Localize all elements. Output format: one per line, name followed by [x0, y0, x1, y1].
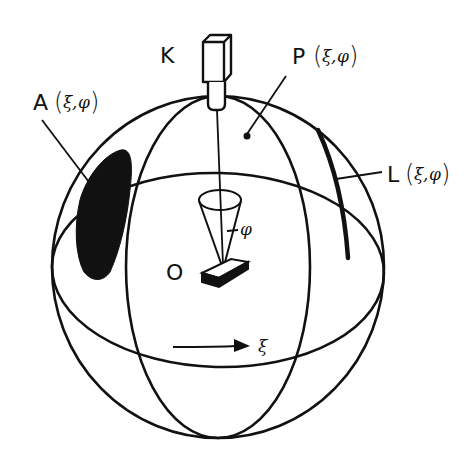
svg-text:,: ,	[72, 92, 77, 112]
leader-p	[247, 76, 286, 134]
svg-text:): )	[90, 88, 99, 116]
svg-text:(: (	[54, 88, 63, 116]
label-origin-o: O	[166, 260, 183, 285]
label-cone-phi: φ	[240, 219, 252, 239]
label-line-l: L ( ξ , φ )	[387, 160, 450, 188]
svg-text:): )	[441, 160, 450, 188]
rotation-arrow	[173, 339, 250, 352]
optical-axis	[217, 110, 223, 265]
svg-text:(: (	[405, 160, 414, 188]
camera-k	[203, 35, 231, 110]
svg-text:P: P	[292, 44, 305, 69]
svg-text:): )	[349, 42, 358, 70]
svg-text:,: ,	[331, 46, 336, 66]
sphere-diagram: K P ( ξ , φ ) A ( ξ , φ ) L ( ξ , φ ) O …	[0, 0, 475, 463]
svg-text:(: (	[313, 42, 322, 70]
label-area-a: A ( ξ , φ )	[33, 88, 99, 116]
point-p-dot	[244, 133, 251, 140]
line-l-arc	[318, 130, 348, 258]
svg-text:A: A	[33, 90, 48, 115]
label-point-p: P ( ξ , φ )	[292, 42, 358, 70]
sample-plate	[202, 259, 248, 287]
svg-text:φ: φ	[78, 92, 90, 112]
label-rotation-xi: ξ	[258, 336, 269, 356]
label-camera-k: K	[160, 43, 175, 68]
svg-text:,: ,	[423, 164, 428, 184]
svg-text:L: L	[387, 162, 400, 187]
area-a-shape	[76, 150, 131, 280]
svg-text:φ: φ	[337, 46, 349, 66]
svg-text:φ: φ	[429, 164, 441, 184]
